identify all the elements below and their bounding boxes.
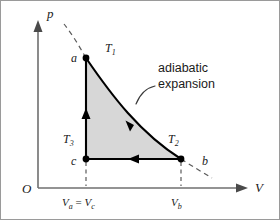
annotation-line-2: expansion bbox=[158, 77, 215, 91]
point-c-label: c bbox=[71, 154, 77, 168]
point-c-marker bbox=[83, 156, 90, 163]
point-a-marker bbox=[83, 55, 90, 62]
origin-label: O bbox=[22, 181, 32, 196]
pressure-axis-label: p bbox=[46, 6, 54, 21]
point-b-marker bbox=[178, 156, 185, 163]
point-a-label: a bbox=[71, 51, 77, 65]
pv-diagram-figure: p V O a c b T1 T2 T3 Va = Vc Vb adiabati… bbox=[0, 0, 280, 220]
point-b-label: b bbox=[202, 154, 208, 168]
annotation-line-1: adiabatic bbox=[158, 61, 208, 75]
